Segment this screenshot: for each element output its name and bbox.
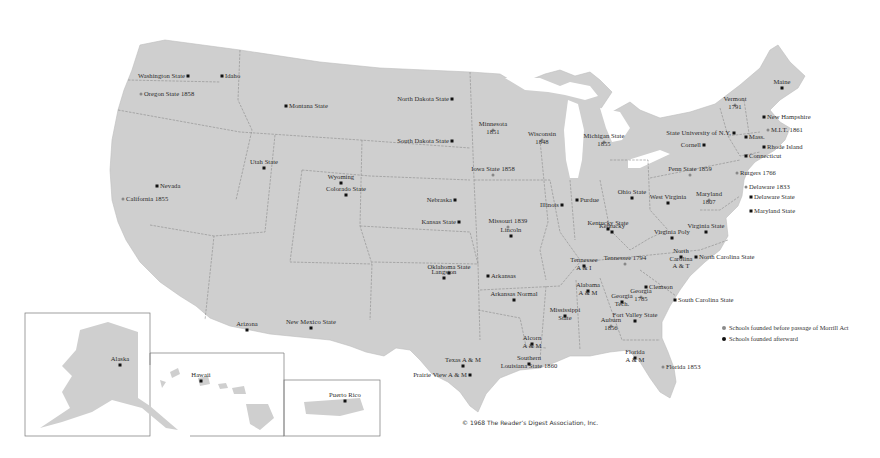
school-marker-before-icon (767, 129, 770, 132)
school-label: West Virginia (650, 193, 687, 201)
school-label: Penn State 1859 (668, 165, 712, 173)
gray-dot-icon (722, 326, 726, 330)
school-marker-before-icon (745, 186, 748, 189)
school-marker-before-icon (662, 366, 665, 369)
school-label: Clemson (649, 283, 673, 291)
school-label: Michigan State 1855 (584, 132, 625, 147)
school-marker-after-icon (667, 202, 670, 205)
school-label: Ohio State (618, 188, 647, 196)
school-label: Delaware State (754, 193, 795, 201)
school-marker-after-icon (561, 204, 564, 207)
legend-label: Schools founded before passage of Morril… (729, 324, 849, 331)
school-marker-after-icon (156, 185, 159, 188)
school-marker-after-icon (671, 237, 674, 240)
school-label: Nebraska (427, 196, 452, 204)
legend-label: Schools founded afterward (729, 335, 798, 342)
school-marker-after-icon (263, 167, 266, 170)
school-label: Utah State (250, 158, 278, 166)
school-marker-after-icon (750, 210, 753, 213)
school-label: South Dakota State (397, 137, 449, 145)
school-marker-after-icon (469, 374, 472, 377)
school-marker-after-icon (695, 256, 698, 259)
school-label: Fort Valley State (612, 311, 657, 319)
school-label: Southern Louisiana State 1860 (501, 354, 558, 369)
school-marker-after-icon (458, 221, 461, 224)
school-marker-after-icon (451, 140, 454, 143)
school-label: Kentucky (599, 222, 625, 230)
school-label: North Carolina A & T (669, 247, 692, 270)
school-label: Arkansas (491, 272, 516, 280)
school-marker-after-icon (200, 380, 203, 383)
map-legend: Schools founded before passage of Morril… (722, 322, 849, 344)
school-label: Hawaii (191, 371, 210, 379)
school-marker-after-icon (462, 365, 465, 368)
school-label: Wisconsin 1848 (528, 130, 556, 145)
school-label: New Mexico State (286, 318, 336, 326)
school-label: South Carolina State (678, 296, 734, 304)
school-label: Colorado State (326, 185, 366, 193)
school-label: Rutgers 1766 (740, 169, 776, 177)
school-marker-before-icon (736, 172, 739, 175)
school-label: Oregon State 1858 (144, 90, 194, 98)
school-label: Maine (773, 78, 790, 86)
school-label: Alcorn A & M (523, 334, 542, 349)
school-label: Georgia 1785 (630, 287, 651, 302)
school-marker-after-icon (745, 136, 748, 139)
school-label: Arkansas Normal (490, 290, 537, 298)
school-label: Maryland State (754, 207, 795, 215)
school-marker-after-icon (781, 87, 784, 90)
school-label: Florida A & M (625, 348, 644, 363)
puerto-rico-landmass (304, 398, 364, 416)
school-label: Delaware 1833 (749, 183, 790, 191)
school-marker-after-icon (510, 235, 513, 238)
school-marker-after-icon (750, 196, 753, 199)
school-label: Wyoming (328, 173, 354, 181)
school-marker-before-icon (140, 93, 143, 96)
school-marker-after-icon (487, 275, 490, 278)
school-label: Idaho (225, 72, 240, 80)
school-marker-after-icon (733, 132, 736, 135)
school-marker-after-icon (345, 194, 348, 197)
school-label: North Dakota State (397, 95, 449, 103)
school-marker-after-icon (745, 155, 748, 158)
alaska-landmass (40, 322, 178, 430)
copyright-notice: © 1968 The Reader’s Digest Association, … (462, 419, 598, 426)
school-marker-after-icon (119, 364, 122, 367)
us-map (0, 0, 880, 458)
school-label: M.I.T. 1861 (771, 126, 803, 134)
school-marker-before-icon (122, 198, 125, 201)
school-label: Illinois (540, 201, 559, 209)
school-label: Texas A & M (445, 356, 481, 364)
school-label: North Carolina State (699, 253, 755, 261)
school-marker-after-icon (611, 231, 614, 234)
school-marker-after-icon (451, 98, 454, 101)
school-label: Cornell (681, 141, 701, 149)
school-label: Mississippi State (550, 306, 581, 321)
school-label: Vermont 1791 (723, 95, 746, 110)
school-marker-after-icon (763, 116, 766, 119)
school-label: Montana State (289, 102, 328, 110)
school-label: Tennessee A & I (570, 256, 597, 271)
school-label: Mass. (749, 133, 765, 141)
school-label: Virginia State (688, 222, 725, 230)
school-marker-after-icon (187, 75, 190, 78)
school-label: Kansas State (422, 218, 456, 226)
school-marker-after-icon (634, 320, 637, 323)
school-marker-after-icon (454, 199, 457, 202)
school-label: Iowa State 1858 (471, 165, 515, 173)
school-marker-after-icon (443, 277, 446, 280)
school-label: Tennessee 1794 (604, 254, 647, 262)
school-marker-after-icon (763, 146, 766, 149)
school-label: Minnesota 1851 (479, 120, 507, 135)
school-marker-after-icon (674, 299, 677, 302)
school-marker-before-icon (492, 174, 495, 177)
school-label: Virginia Poly (654, 228, 690, 236)
school-label: Connecticut (749, 152, 781, 160)
school-label: Alabama A & M (576, 281, 600, 296)
school-label: Puerto Rico (329, 391, 361, 399)
school-marker-after-icon (310, 327, 313, 330)
school-label: Prairie View A & M (413, 371, 467, 379)
school-marker-after-icon (221, 75, 224, 78)
school-label: Purdue (580, 196, 599, 204)
school-label: Washington State (138, 72, 185, 80)
